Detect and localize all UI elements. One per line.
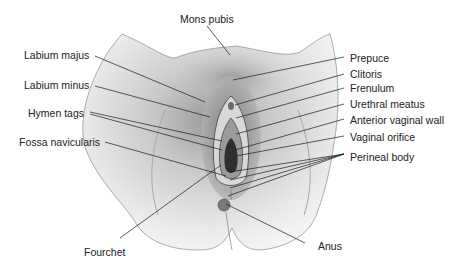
label-anterior-vaginal-wall: Anterior vaginal wall bbox=[350, 114, 444, 126]
label-anus: Anus bbox=[318, 240, 342, 252]
label-hymen-tags: Hymen tags bbox=[28, 107, 84, 119]
clitoris-shape bbox=[228, 102, 234, 110]
label-mons-pubis: Mons pubis bbox=[180, 13, 234, 25]
label-urethral-meatus: Urethral meatus bbox=[350, 98, 425, 110]
label-prepuce: Prepuce bbox=[350, 52, 389, 64]
label-fossa-navicularis: Fossa navicularis bbox=[19, 136, 100, 148]
label-frenulum: Frenulum bbox=[350, 82, 394, 94]
label-clitoris: Clitoris bbox=[350, 68, 382, 80]
label-labium-minus: Labium minus bbox=[24, 79, 89, 91]
label-perineal-body: Perineal body bbox=[350, 151, 414, 163]
label-vaginal-orifice: Vaginal orifice bbox=[350, 131, 415, 143]
label-fourchet: Fourchet bbox=[84, 246, 125, 258]
label-labium-majus: Labium majus bbox=[24, 49, 89, 61]
